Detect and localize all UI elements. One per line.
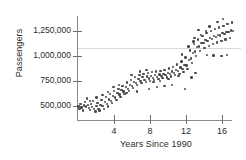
data-point [152,81,154,83]
data-point [95,105,97,107]
data-point [139,70,141,72]
data-point [181,68,183,70]
data-point [192,40,194,42]
data-point [200,34,202,36]
data-point [161,77,163,79]
data-point [212,43,214,45]
data-point [96,102,98,104]
data-point [107,105,109,107]
data-point [115,99,117,101]
data-point [86,97,88,99]
y-axis-tick-label: 1,250,000 [11,25,71,35]
data-point [189,49,191,51]
y-axis-tick-label: 1,000,000 [11,50,71,60]
data-point [199,50,201,52]
data-point [147,72,149,74]
data-point [112,86,114,88]
data-point [186,68,188,70]
x-axis-tick-label: 4 [102,126,126,136]
data-point [226,23,228,25]
data-point [232,30,234,32]
data-point [219,34,221,36]
data-point [216,41,218,43]
data-point [171,84,173,86]
data-point [197,29,199,31]
data-point [194,72,196,74]
data-point [222,25,224,27]
data-point [138,74,140,76]
data-point [215,36,217,38]
y-axis-tick-label: 500,000 [11,100,71,110]
data-point [187,45,189,47]
data-point [226,54,228,56]
data-point [117,88,119,90]
y-axis-tick [73,81,82,82]
data-point [151,71,153,73]
data-point [163,69,165,71]
data-point [94,110,96,112]
data-point [195,55,197,57]
data-point [185,64,187,66]
data-point [184,56,186,58]
data-point [229,37,231,39]
data-point [159,80,161,82]
data-point [177,75,179,77]
data-point [206,54,208,56]
x-axis-tick-label: 8 [138,126,162,136]
data-point [193,37,195,39]
data-point [190,57,192,59]
data-point [103,108,105,110]
data-point [109,93,111,95]
data-point [128,90,130,92]
data-point [210,30,212,32]
data-point [222,18,224,20]
data-point [163,85,165,87]
data-point [149,80,151,82]
data-point [202,42,204,44]
data-point [92,100,94,102]
gridline-horizontal [78,48,241,49]
data-point [176,63,178,65]
x-axis-tick-label: 16 [210,126,234,136]
data-point [148,88,150,90]
data-point [194,50,196,52]
data-point [211,38,213,40]
data-point [82,109,84,111]
y-axis-tick [73,56,82,57]
data-point [126,81,128,83]
data-point [89,109,91,111]
data-point [203,47,205,49]
data-point [84,101,86,103]
x-axis-line [77,120,232,121]
data-point [184,88,186,90]
data-point [136,84,138,86]
data-point [90,103,92,105]
data-point [220,55,222,57]
data-point [180,60,182,62]
data-point [190,76,192,78]
x-axis-title: Years Since 1990 [76,139,236,149]
x-axis-tick-label: 12 [174,126,198,136]
data-point [130,74,132,76]
y-axis-tick-label: 750,000 [11,75,71,85]
data-point [136,90,138,92]
data-point [172,66,174,68]
data-point [87,104,89,106]
data-point [231,21,233,23]
data-point [121,85,123,87]
data-point [220,40,222,42]
data-point [95,96,97,98]
data-point [159,70,161,72]
data-point [79,103,81,105]
data-point [214,28,216,30]
data-point [100,99,102,101]
data-point [174,74,176,76]
data-point [224,38,226,40]
data-point [155,70,157,72]
data-point [132,87,134,89]
data-point [182,71,184,73]
data-point [208,45,210,47]
data-point [205,32,207,34]
data-point [145,81,147,83]
data-point [216,21,218,23]
